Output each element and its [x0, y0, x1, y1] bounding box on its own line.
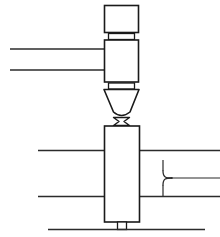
branch-fillet-upper-curve [163, 171, 172, 178]
workpiece-vertical-block [105, 126, 140, 222]
torch-upper-collar [109, 34, 135, 40]
workpiece-base-stem [118, 222, 127, 230]
torch-upper-housing [105, 6, 139, 33]
branch-fillet-lower-curve [163, 178, 172, 185]
torch-nozzle-cone [104, 90, 139, 116]
technical-diagram [0, 0, 220, 237]
torch-lower-collar [109, 83, 135, 89]
diagram-canvas [0, 0, 220, 237]
torch-mid-housing [105, 40, 139, 82]
weld-bead [114, 118, 130, 126]
